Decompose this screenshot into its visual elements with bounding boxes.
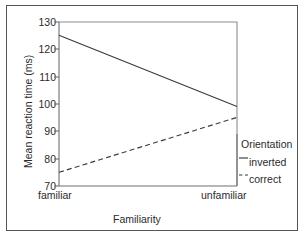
series-line-correct: [59, 117, 237, 172]
series-line-inverted: [59, 35, 237, 106]
plot-area-border: [59, 22, 237, 186]
chart-figure: Mean reaction time (ms) Familiarity 130 …: [0, 0, 306, 238]
plot-vector-layer: [0, 0, 306, 238]
